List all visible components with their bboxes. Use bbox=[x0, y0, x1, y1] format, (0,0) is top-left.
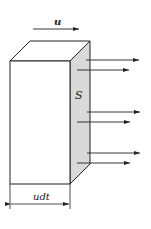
front-face bbox=[10, 61, 70, 184]
flux-diagram: u S udt bbox=[0, 0, 151, 229]
surface-label: S bbox=[75, 89, 83, 102]
velocity-label: u bbox=[54, 16, 61, 27]
dimension-label: udt bbox=[33, 191, 51, 202]
